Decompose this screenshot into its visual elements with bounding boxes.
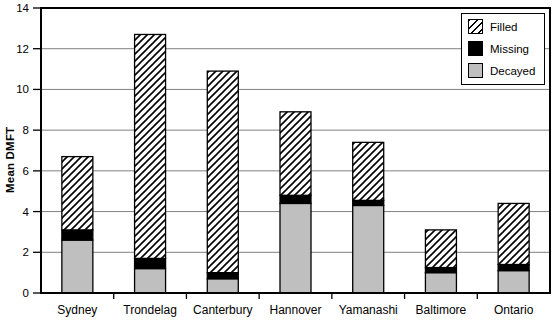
- filled-hatch-swatch-icon: [468, 19, 483, 34]
- bar-segment-ontario-decayed: [498, 271, 529, 293]
- y-axis-tick-label-12: 12: [16, 43, 29, 55]
- y-axis-tick-label-4: 4: [23, 206, 30, 218]
- x-axis-label-hannover: Hannover: [269, 303, 321, 317]
- bar-segment-hannover-filled: [280, 112, 311, 195]
- bar-segment-baltimore-missing: [425, 268, 456, 273]
- bar-segment-sydney-filled: [62, 157, 93, 230]
- bar-segment-hannover-missing: [280, 195, 311, 203]
- y-axis-tick-label-0: 0: [23, 287, 29, 299]
- missing-black-swatch-icon: [468, 41, 483, 56]
- bar-segment-ontario-filled: [498, 203, 529, 264]
- bar-segment-yamanashi-filled: [353, 142, 384, 200]
- y-axis-tick-label-14: 14: [16, 2, 29, 14]
- bar-segment-trondelag-filled: [135, 34, 166, 258]
- bar-segment-sydney-missing: [62, 230, 93, 240]
- legend-item-filled: Filled: [468, 19, 539, 34]
- bar-segment-baltimore-decayed: [425, 273, 456, 293]
- x-axis-label-baltimore: Baltimore: [416, 303, 467, 317]
- x-axis-label-canterbury: Canterbury: [193, 303, 252, 317]
- x-axis-label-sydney: Sydney: [57, 303, 97, 317]
- bar-segment-ontario-missing: [498, 265, 529, 271]
- y-axis-tick-label-2: 2: [23, 246, 29, 258]
- y-axis-tick-label-8: 8: [23, 124, 29, 136]
- x-axis-label-ontario: Ontario: [494, 303, 534, 317]
- bar-segment-yamanashi-missing: [353, 200, 384, 205]
- legend-item-decayed: Decayed: [468, 63, 539, 78]
- bar-segment-canterbury-decayed: [207, 279, 238, 293]
- bar-segment-canterbury-filled: [207, 71, 238, 273]
- legend-label-filled: Filled: [483, 21, 517, 33]
- x-axis-label-yamanashi: Yamanashi: [339, 303, 398, 317]
- bar-segment-baltimore-filled: [425, 230, 456, 268]
- bar-segment-hannover-decayed: [280, 203, 311, 293]
- decayed-gray-swatch-icon: [468, 63, 483, 78]
- bar-segment-trondelag-missing: [135, 258, 166, 268]
- legend-label-decayed: Decayed: [483, 65, 535, 77]
- legend-item-missing: Missing: [468, 41, 539, 56]
- bar-segment-canterbury-missing: [207, 273, 238, 279]
- y-axis-title: Mean DMFT: [4, 127, 16, 193]
- y-axis-tick-label-6: 6: [23, 165, 29, 177]
- dmft-stacked-bar-chart: SydneyTrondelagCanterburyHannoverYamanas…: [0, 0, 558, 322]
- legend: Filled Missing Decayed: [461, 13, 545, 85]
- y-axis-tick-label-10: 10: [16, 83, 29, 95]
- legend-label-missing: Missing: [483, 43, 529, 55]
- x-axis-label-trondelag: Trondelag: [123, 303, 177, 317]
- bar-segment-sydney-decayed: [62, 240, 93, 293]
- bar-segment-yamanashi-decayed: [353, 205, 384, 293]
- bar-segment-trondelag-decayed: [135, 269, 166, 293]
